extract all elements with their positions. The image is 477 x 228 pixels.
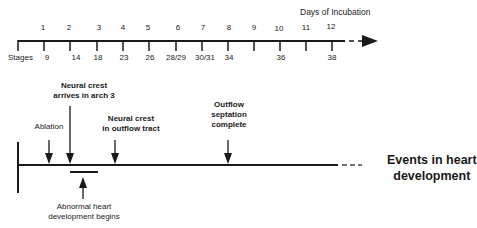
ablation-label: Ablation <box>35 122 64 132</box>
stage-label: 26 <box>146 53 155 62</box>
stage-label: 23 <box>120 53 129 62</box>
day-label: 1 <box>41 23 45 32</box>
day-label: 9 <box>252 23 256 32</box>
septation-arrow-icon <box>224 140 232 164</box>
stage-label: 28/29 <box>166 53 186 62</box>
day-label: 2 <box>67 23 71 32</box>
timeline-arrowhead-icon <box>362 35 378 47</box>
stage-label: 14 <box>72 53 81 62</box>
septation-complete-label: Outflow septation complete <box>211 100 247 130</box>
stage-label: 30/31 <box>195 53 215 62</box>
neural-crest-arch-arrow-icon <box>66 106 74 164</box>
day-label: 10 <box>275 24 284 33</box>
stage-label: 36 <box>277 53 286 62</box>
day-label: 11 <box>302 23 310 32</box>
day-label: 5 <box>146 23 150 32</box>
neural-crest-outflow-label: Neural crest in outflow tract <box>102 114 159 134</box>
abnormal-development-label: Abnormal heart development begins <box>48 202 120 222</box>
stage-label: 9 <box>45 53 49 62</box>
neural-crest-outflow-arrow-icon <box>111 140 119 164</box>
abnormal-development-marker <box>70 172 98 199</box>
day-label: 4 <box>121 23 125 32</box>
stage-label: 18 <box>94 53 103 62</box>
events-in-heart-development-title: Events in heart development <box>387 152 477 184</box>
stage-label: 34 <box>225 53 234 62</box>
day-label: 6 <box>176 23 180 32</box>
day-label: 3 <box>97 23 101 32</box>
day-label: 12 <box>327 22 336 31</box>
incubation-timeline-axis <box>18 35 378 51</box>
stages-label: Stages <box>8 53 33 62</box>
neural-crest-arch-label: Neural crest arrives in arch 3 <box>53 81 114 101</box>
stage-label: 38 <box>328 53 337 62</box>
days-of-incubation-title: Days of Incubation <box>300 7 370 17</box>
ablation-arrow-icon <box>45 140 53 164</box>
day-label: 7 <box>201 23 205 32</box>
day-label: 8 <box>227 23 231 32</box>
